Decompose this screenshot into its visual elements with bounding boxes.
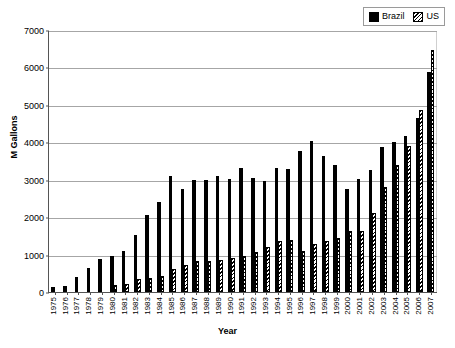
x-tick-cell-1975: 1975 [48,296,60,324]
bar-group-2001 [355,31,367,292]
bar-group-1992 [249,31,261,292]
x-tick-label-2002: 2002 [368,297,376,315]
bar-us-1993 [266,247,269,292]
bar-group-1982 [131,31,143,292]
y-tick-label-4000: 4000 [24,138,49,148]
x-tick-cell-1976: 1976 [60,296,72,324]
x-tick-cell-1982: 1982 [130,296,142,324]
bar-us-1999 [337,238,340,292]
bar-us-1986 [184,265,187,292]
x-tick-mark-1977 [78,292,79,295]
x-tick-mark-1999 [337,292,338,295]
x-tick-label-1996: 1996 [297,297,305,315]
x-tick-cell-1978: 1978 [83,296,95,324]
bar-group-1984 [155,31,167,292]
bar-group-1983 [143,31,155,292]
x-tick-label-2003: 2003 [380,297,388,315]
bar-us-1995 [290,240,293,292]
bar-us-2004 [396,165,399,292]
x-tick-label-1989: 1989 [215,297,223,315]
bar-us-1988 [208,261,211,292]
x-tick-mark-1998 [325,292,326,295]
x-tick-cell-2002: 2002 [366,296,378,324]
bar-us-2007 [431,50,434,292]
x-tick-mark-1990 [231,292,232,295]
x-tick-label-1993: 1993 [262,297,270,315]
bar-us-1987 [196,261,199,292]
x-tick-cell-1989: 1989 [213,296,225,324]
x-tick-mark-2007 [431,292,432,295]
x-tick-mark-2006 [419,292,420,295]
x-tick-label-1990: 1990 [227,297,235,315]
bar-group-1999 [331,31,343,292]
bar-group-1987 [190,31,202,292]
bar-group-1990 [225,31,237,292]
x-tick-cell-1988: 1988 [201,296,213,324]
x-tick-label-2005: 2005 [403,297,411,315]
x-tick-label-1978: 1978 [85,297,93,315]
x-tick-label-1979: 1979 [97,297,105,315]
bar-us-1998 [325,241,328,292]
bar-us-1981 [125,284,128,292]
legend-swatch-us-icon [413,12,423,22]
x-tick-mark-1975 [55,292,56,295]
x-tick-cell-2000: 2000 [343,296,355,324]
bar-us-1982 [137,279,140,292]
y-tick-label-5000: 5000 [24,101,49,111]
bar-group-1979 [96,31,108,292]
bar-us-1992 [255,252,258,292]
bar-group-1994 [272,31,284,292]
bar-group-1981 [120,31,132,292]
bar-series-container [49,31,437,292]
legend-item-us: US [413,12,439,22]
x-axis-title: Year [0,326,455,336]
bar-group-2003 [378,31,390,292]
bar-group-1977 [73,31,85,292]
x-tick-cell-2003: 2003 [378,296,390,324]
bar-group-1978 [84,31,96,292]
x-tick-label-1984: 1984 [156,297,164,315]
x-tick-cell-2006: 2006 [413,296,425,324]
x-tick-cell-2001: 2001 [354,296,366,324]
x-tick-label-1980: 1980 [109,297,117,315]
bar-group-1986 [178,31,190,292]
bar-group-1993 [261,31,273,292]
x-tick-label-1986: 1986 [179,297,187,315]
x-tick-mark-1976 [67,292,68,295]
x-tick-label-1995: 1995 [286,297,294,315]
bar-group-1975 [49,31,61,292]
bar-us-2006 [419,110,422,292]
x-tick-cell-1986: 1986 [178,296,190,324]
x-tick-label-1997: 1997 [309,297,317,315]
bar-group-1988 [202,31,214,292]
bar-brazil-1977 [75,277,78,292]
x-tick-label-2001: 2001 [356,297,364,315]
x-tick-mark-1983 [149,292,150,295]
x-tick-mark-1982 [137,292,138,295]
bar-group-1976 [61,31,73,292]
bar-group-1980 [108,31,120,292]
bar-brazil-1978 [87,268,90,292]
x-tick-cell-1987: 1987 [189,296,201,324]
x-tick-cell-1984: 1984 [154,296,166,324]
bar-brazil-1979 [98,259,101,292]
bar-us-2000 [349,231,352,292]
bar-group-1991 [237,31,249,292]
x-tick-mark-1993 [266,292,267,295]
x-tick-cell-1980: 1980 [107,296,119,324]
x-tick-label-1994: 1994 [274,297,282,315]
x-tick-mark-1980 [114,292,115,295]
bar-group-1989 [214,31,226,292]
x-tick-mark-1985 [172,292,173,295]
bar-us-1984 [161,276,164,292]
x-tick-mark-2003 [384,292,385,295]
x-tick-mark-1996 [302,292,303,295]
x-tick-label-1982: 1982 [132,297,140,315]
x-tick-cell-1992: 1992 [248,296,260,324]
x-tick-cell-2005: 2005 [401,296,413,324]
x-tick-label-1977: 1977 [73,297,81,315]
bar-group-2004 [390,31,402,292]
x-tick-mark-1995 [290,292,291,295]
x-tick-label-1976: 1976 [62,297,70,315]
x-tick-cell-1983: 1983 [142,296,154,324]
